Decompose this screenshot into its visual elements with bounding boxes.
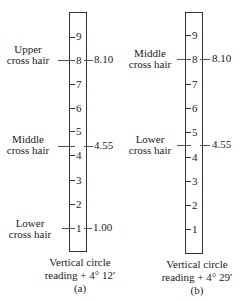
upper-cross-hair-label: Upper cross hair — [0, 44, 56, 66]
middle-cross-hair-value: 4.55 — [94, 140, 113, 151]
panel-a: 9 8 7 6 5 4 3 2 1 Upper cross hair 8.10 … — [0, 0, 125, 301]
rod-number-9: 9 — [76, 31, 82, 42]
rod-number-5: 5 — [192, 127, 198, 138]
panel-b: 9 8 7 6 5 4 3 2 1 Middle cross hair 8.10… — [125, 0, 251, 301]
lower-cross-hair-line-right — [84, 228, 92, 229]
lower-cross-hair-line-left — [62, 228, 75, 229]
tick-7 — [69, 84, 75, 85]
lower-cross-hair-value: 1.00 — [93, 222, 112, 233]
sublabel-a: (a) — [30, 282, 130, 295]
tick-5 — [185, 132, 191, 133]
tick-6 — [69, 108, 75, 109]
lower-cross-hair-value: 4.55 — [212, 139, 231, 150]
middle-cross-hair-line-left — [177, 59, 191, 60]
tick-2 — [185, 205, 191, 206]
lower-cross-hair-line-right — [200, 145, 210, 146]
tick-5 — [69, 131, 75, 132]
rod-number-1: 1 — [192, 224, 198, 235]
rod-number-2: 2 — [192, 200, 198, 211]
tick-6 — [185, 108, 191, 109]
upper-cross-hair-line-right — [84, 60, 93, 61]
middle-cross-hair-label: Middle cross hair — [125, 48, 175, 70]
middle-cross-hair-label: Middle cross hair — [0, 134, 56, 156]
upper-cross-hair-value: 8.10 — [94, 54, 113, 65]
rod-number-5: 5 — [76, 126, 82, 137]
rod-number-6: 6 — [76, 103, 82, 114]
rod-number-8: 8 — [76, 55, 82, 66]
lower-cross-hair-label: Lower cross hair — [125, 134, 175, 156]
lower-cross-hair-line-left — [177, 145, 191, 146]
middle-cross-hair-line-left — [58, 146, 75, 147]
tick-4 — [69, 155, 75, 156]
rod-number-4: 4 — [192, 152, 198, 163]
rod-number-6: 6 — [192, 103, 198, 114]
tick-7 — [185, 84, 191, 85]
tick-3 — [69, 180, 75, 181]
rod-number-8: 8 — [192, 54, 198, 65]
rod-number-7: 7 — [192, 79, 198, 90]
rod-number-3: 3 — [76, 175, 82, 186]
rod-number-4: 4 — [76, 150, 82, 161]
rod-number-3: 3 — [192, 176, 198, 187]
tick-9 — [69, 37, 75, 38]
tick-2 — [69, 204, 75, 205]
middle-cross-hair-value: 8.10 — [212, 53, 231, 64]
rod-number-7: 7 — [76, 79, 82, 90]
middle-cross-hair-line-right — [200, 59, 210, 60]
tick-9 — [185, 35, 191, 36]
upper-cross-hair-line-left — [58, 60, 75, 61]
sublabel-b: (b) — [147, 284, 247, 297]
middle-cross-hair-line-right — [84, 146, 93, 147]
lower-cross-hair-label: Lower cross hair — [0, 218, 60, 240]
caption-a: Vertical circle reading + 4° 12′ (a) — [30, 256, 130, 295]
rod-number-1: 1 — [76, 223, 82, 234]
rod-number-2: 2 — [76, 199, 82, 210]
rod-number-9: 9 — [192, 30, 198, 41]
caption-b: Vertical circle reading + 4° 29′ (b) — [147, 258, 247, 297]
tick-1 — [185, 229, 191, 230]
tick-3 — [185, 181, 191, 182]
tick-4 — [185, 157, 191, 158]
